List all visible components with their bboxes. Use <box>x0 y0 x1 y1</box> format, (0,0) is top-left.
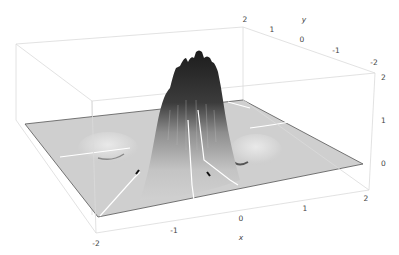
x-tick-2: 0 <box>239 214 244 223</box>
x-axis-label: x <box>238 233 244 242</box>
x-tick-0: -2 <box>92 239 100 248</box>
z-tick-2: 2 <box>381 73 386 82</box>
y-tick-2: 0 <box>300 35 305 44</box>
x-tick-3: 1 <box>303 204 308 213</box>
z-tick-0: 0 <box>381 159 386 168</box>
z-axis: 0 1 2 <box>381 73 386 168</box>
surface-plot: -2 -1 0 1 2 x 2 1 0 -1 -2 y 0 1 2 <box>0 0 399 255</box>
y-tick-0: 2 <box>243 15 248 24</box>
x-tick-4: 2 <box>364 194 369 203</box>
right-bump <box>230 134 282 166</box>
z-tick-1: 1 <box>381 116 386 125</box>
y-axis: 2 1 0 -1 -2 y <box>243 15 378 67</box>
y-axis-label: y <box>301 15 307 24</box>
y-tick-1: 1 <box>270 25 275 34</box>
x-tick-1: -1 <box>170 226 178 235</box>
y-tick-4: -2 <box>370 58 378 67</box>
y-tick-3: -1 <box>332 46 340 55</box>
